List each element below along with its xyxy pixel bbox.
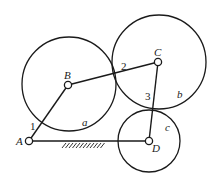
label-link-1: 1 bbox=[30, 120, 36, 132]
label-link-3: 3 bbox=[145, 90, 151, 102]
link-2-BC bbox=[68, 62, 158, 85]
label-circle-a: a bbox=[82, 116, 88, 128]
label-circle-c: c bbox=[165, 121, 170, 133]
link-1-AB bbox=[29, 85, 68, 141]
label-circle-b: b bbox=[177, 88, 183, 100]
label-C: C bbox=[154, 46, 162, 58]
ground-hatching bbox=[62, 143, 105, 148]
joint-A bbox=[25, 137, 32, 144]
label-A: A bbox=[15, 135, 23, 147]
label-D: D bbox=[151, 142, 160, 154]
linkage-diagram: A B C D 1 2 3 a b c bbox=[0, 0, 221, 182]
label-B: B bbox=[64, 69, 71, 81]
joint-C bbox=[154, 58, 161, 65]
joint-B bbox=[64, 81, 71, 88]
label-link-2: 2 bbox=[121, 60, 127, 72]
